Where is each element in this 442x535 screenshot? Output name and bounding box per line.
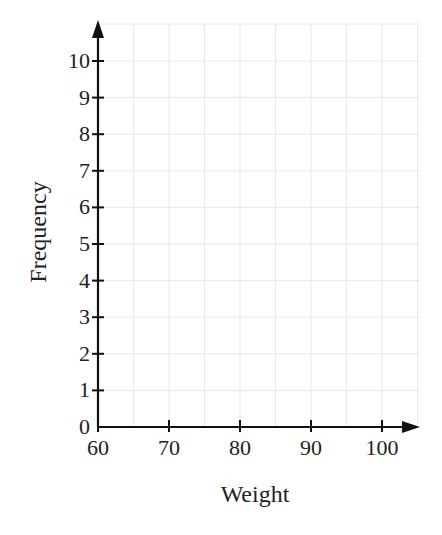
y-axis-arrow-icon (92, 20, 104, 38)
y-tick-label: 10 (68, 48, 90, 73)
x-tick-label: 90 (300, 435, 322, 460)
x-tick-label: 60 (87, 435, 109, 460)
x-tick-label: 80 (229, 435, 251, 460)
y-tick-label: 2 (79, 341, 90, 366)
histogram-chart: 60708090100 012345678910 Weight Frequenc… (0, 0, 442, 535)
x-tick-label: 100 (366, 435, 399, 460)
x-axis-title: Weight (221, 481, 290, 507)
y-tick-label: 3 (79, 304, 90, 329)
y-tick-label: 9 (79, 85, 90, 110)
y-tick-label: 6 (79, 194, 90, 219)
y-tick-label: 1 (79, 377, 90, 402)
x-tick-label: 70 (158, 435, 180, 460)
y-tick-label: 7 (79, 158, 90, 183)
axes (92, 20, 420, 433)
y-tick-label: 5 (79, 231, 90, 256)
y-tick-label: 8 (79, 121, 90, 146)
grid-lines (98, 24, 420, 427)
y-tick-label: 0 (79, 414, 90, 439)
y-axis-title: Frequency (25, 181, 51, 282)
y-tick-label: 4 (79, 268, 90, 293)
